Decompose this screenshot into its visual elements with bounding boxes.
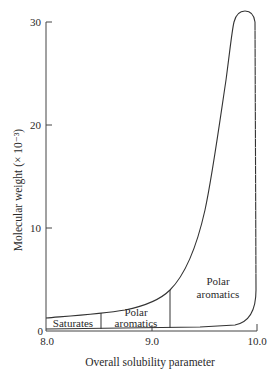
x-tick-label-9: 9.0: [145, 335, 159, 347]
region-label-polar-aromatics-2-line1: Polar: [206, 275, 230, 287]
x-tick-label-8: 8.0: [40, 335, 54, 347]
x-tick-label-10: 10.0: [247, 335, 267, 347]
y-tick-label-20: 20: [30, 119, 42, 131]
chart-figure: 30 20 10 0 Molecular weight (× 10⁻³) 8.0…: [0, 0, 279, 381]
region-label-saturates: Saturates: [53, 317, 93, 329]
region-label-polar-aromatics-1-line2: aromatics: [115, 317, 158, 329]
y-axis: 30 20 10 0 Molecular weight (× 10⁻³): [12, 16, 52, 337]
y-axis-title: Molecular weight (× 10⁻³): [12, 129, 25, 252]
y-tick-label-10: 10: [30, 222, 42, 234]
region-label-polar-aromatics-2-line2: aromatics: [197, 288, 240, 300]
x-axis-title: Overall solubility parameter: [85, 356, 215, 369]
y-tick-label-30: 30: [30, 16, 42, 28]
x-axis: 8.0 9.0 10.0 Overall solubility paramete…: [40, 324, 267, 369]
